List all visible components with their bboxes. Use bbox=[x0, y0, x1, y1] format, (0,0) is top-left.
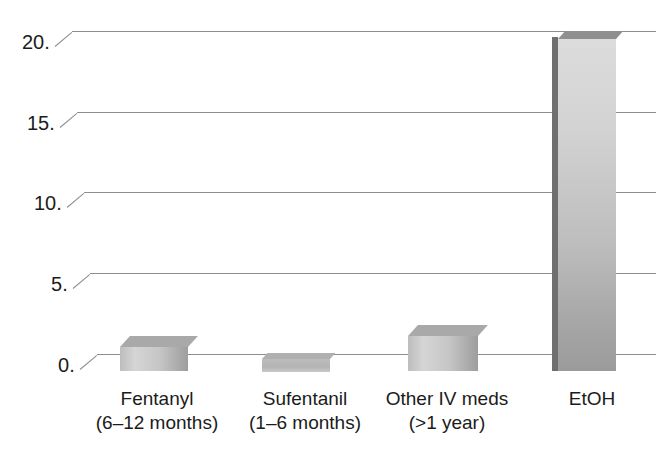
bar-etoh bbox=[558, 31, 616, 371]
bar-front-face bbox=[262, 359, 330, 372]
bar-top-face bbox=[408, 325, 488, 336]
bar-front-face bbox=[408, 336, 478, 371]
bar-front-face bbox=[558, 39, 616, 371]
bar-top-face bbox=[120, 336, 198, 347]
gridline-lead-15 bbox=[60, 113, 77, 128]
gridline-lead-0 bbox=[80, 355, 97, 370]
y-tick-label-10: 10. bbox=[16, 193, 62, 213]
gridline-lead-20 bbox=[55, 32, 72, 47]
x-label-line1: EtOH bbox=[569, 388, 615, 409]
gridline-lead-5 bbox=[73, 274, 90, 289]
gridline-lead-10 bbox=[67, 193, 84, 208]
x-label-line1: Sufentanil bbox=[263, 388, 348, 409]
x-label-etoh: EtOH bbox=[497, 387, 672, 411]
bar-front-face bbox=[120, 347, 188, 371]
x-label-line2: (>1 year) bbox=[352, 411, 542, 435]
y-tick-label-15: 15. bbox=[9, 113, 55, 133]
y-tick-label-0: 0. bbox=[29, 355, 75, 375]
y-tick-label-20: 20. bbox=[4, 32, 50, 52]
plot-area: 20. 15. 10. 5. 0. bbox=[0, 0, 672, 463]
y-tick-label-5: 5. bbox=[22, 274, 68, 294]
bar-sufentanil bbox=[262, 354, 330, 372]
bar-other-iv-meds bbox=[408, 325, 478, 371]
bar-chart: 20. 15. 10. 5. 0. bbox=[0, 0, 672, 463]
bar-top-face bbox=[558, 31, 623, 39]
x-label-line1: Fentanyl bbox=[121, 388, 194, 409]
x-label-line1: Other IV meds bbox=[386, 388, 509, 409]
bar-fentanyl bbox=[120, 342, 188, 371]
